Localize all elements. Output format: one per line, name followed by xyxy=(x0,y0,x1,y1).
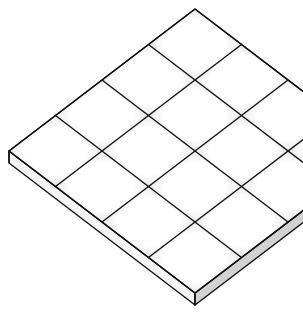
isometric-tile-slab-figure xyxy=(0,0,303,330)
tile-slab-drawing xyxy=(0,0,303,330)
